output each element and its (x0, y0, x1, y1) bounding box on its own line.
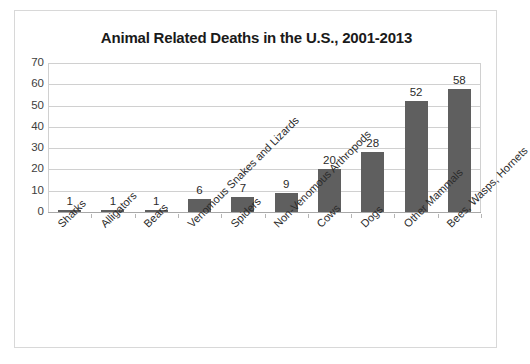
x-tick-mark (351, 214, 352, 218)
x-tick-mark (265, 214, 266, 218)
x-axis: SharksAlligatorsBearsVenomous Snakes and… (48, 214, 481, 344)
y-axis-line (48, 63, 49, 212)
x-tick-mark (178, 214, 179, 218)
x-tick-mark (308, 214, 309, 218)
y-tick-label: 70 (16, 57, 44, 69)
bar-value-label: 58 (437, 75, 481, 87)
x-tick-mark (91, 214, 92, 218)
x-tick-mark (438, 214, 439, 218)
y-tick-label: 30 (16, 142, 44, 154)
y-tick-label: 10 (16, 185, 44, 197)
bar-value-label: 52 (394, 87, 438, 99)
x-tick-mark (221, 214, 222, 218)
y-axis: 706050403020100 (15, 63, 44, 212)
y-tick-label: 20 (16, 163, 44, 175)
chart-frame: Animal Related Deaths in the U.S., 2001-… (14, 10, 497, 348)
gridline (48, 63, 481, 64)
bar[interactable] (405, 101, 428, 212)
x-tick-mark (481, 214, 482, 218)
y-tick-label: 60 (16, 78, 44, 90)
gridline (48, 84, 481, 85)
bar-value-label: 9 (264, 179, 308, 191)
y-tick-label: 50 (16, 100, 44, 112)
chart-title: Animal Related Deaths in the U.S., 2001-… (15, 29, 498, 46)
y-tick-label: 40 (16, 121, 44, 133)
x-tick-mark (135, 214, 136, 218)
plot-area: 11167920285258 (48, 63, 481, 212)
bar[interactable] (361, 152, 384, 212)
y-tick-label: 0 (16, 206, 44, 218)
x-tick-mark (394, 214, 395, 218)
bar[interactable] (448, 89, 471, 212)
